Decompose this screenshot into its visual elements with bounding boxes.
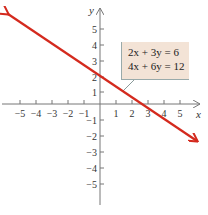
- svg-text:−1: −1: [86, 115, 97, 126]
- svg-text:−3: −3: [86, 147, 97, 158]
- svg-text:−4: −4: [86, 163, 97, 174]
- svg-text:2: 2: [130, 108, 135, 119]
- svg-text:5: 5: [92, 24, 97, 35]
- y-axis-label: y: [88, 4, 94, 16]
- svg-text:−5: −5: [86, 179, 97, 190]
- svg-text:1: 1: [114, 108, 119, 119]
- y-ticks: [100, 29, 104, 184]
- equation-callout: 2x + 3y = 6 4x + 6y = 12: [121, 42, 189, 80]
- svg-text:−3: −3: [47, 108, 58, 119]
- equation-2: 4x + 6y = 12: [128, 59, 189, 73]
- svg-text:4: 4: [92, 40, 97, 51]
- callout-pointer: [122, 80, 134, 92]
- svg-text:−2: −2: [63, 108, 74, 119]
- svg-text:5: 5: [178, 108, 183, 119]
- svg-text:−4: −4: [31, 108, 42, 119]
- equation-1: 2x + 3y = 6: [128, 45, 189, 59]
- svg-text:−2: −2: [86, 131, 97, 142]
- x-axis-label: x: [195, 108, 201, 120]
- svg-text:3: 3: [92, 56, 97, 67]
- svg-text:−5: −5: [15, 108, 26, 119]
- y-tick-labels: 5 4 3 2 1 −1 −2 −3 −4 −5: [86, 24, 97, 190]
- graph-canvas: −5 −4 −3 −2 −1 1 2 3 4 5 5 4 3 2 1 −1 −2…: [0, 0, 208, 215]
- svg-text:1: 1: [92, 87, 97, 98]
